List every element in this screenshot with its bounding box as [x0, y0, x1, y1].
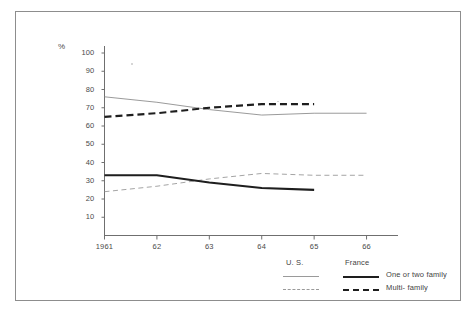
legend-swatch-us-solid-icon [283, 276, 319, 277]
legend-column-header-france: France [345, 258, 369, 267]
scan-speck [277, 101, 279, 102]
scan-speck [131, 63, 133, 65]
y-axis-unit-label: % [58, 42, 65, 51]
legend-row-multi-family: Multi- family [283, 283, 443, 296]
legend-swatch-france-dashed-icon [343, 289, 379, 291]
legend-row-one-or-two-family: One or two family [283, 270, 443, 283]
figure-container: % 102030405060708090100 19616263646566 U… [0, 0, 476, 316]
legend-swatch-france-solid-icon [343, 276, 379, 278]
legend-label-multi-family: Multi- family [386, 283, 428, 292]
legend-swatch-us-dashed-icon [283, 289, 319, 290]
legend-header-row: U. S. France [283, 258, 443, 270]
legend-label-one-or-two-family: One or two family [386, 270, 447, 279]
legend: U. S. France One or two family Multi- fa… [283, 258, 443, 296]
legend-column-header-us: U. S. [286, 258, 303, 267]
